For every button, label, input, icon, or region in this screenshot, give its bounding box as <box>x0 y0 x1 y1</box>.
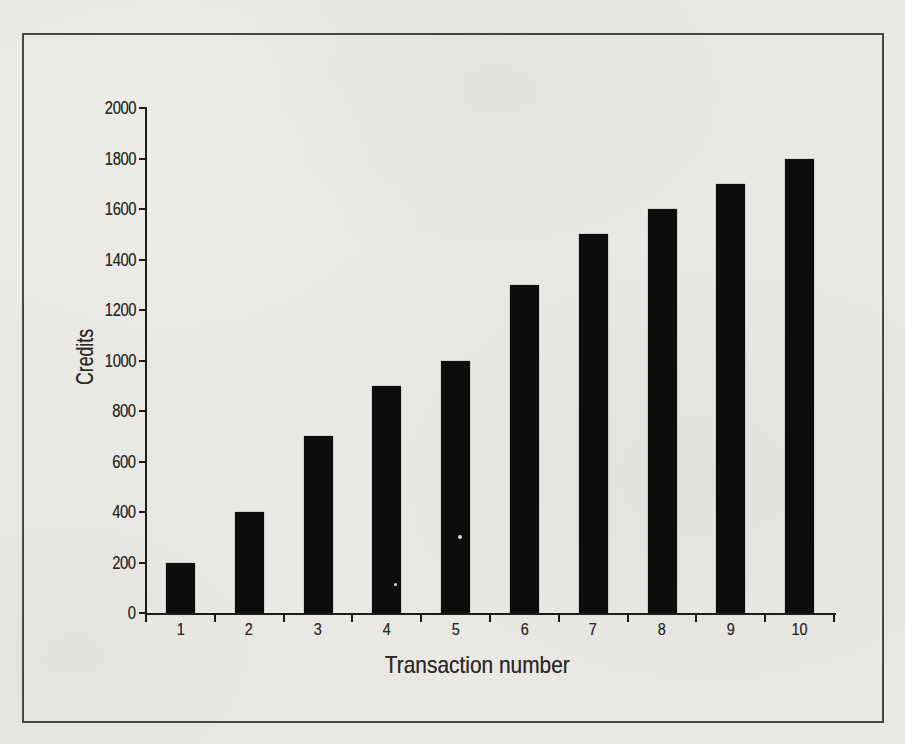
bar-transaction-7 <box>579 234 608 613</box>
y-tick-200 <box>139 562 146 564</box>
y-tick-label-200: 200 <box>84 554 136 572</box>
y-tick-label-2000: 2000 <box>84 99 136 117</box>
scan-dust-speck <box>394 583 397 586</box>
x-tick-7 <box>627 615 629 622</box>
x-tick-label-3: 3 <box>293 621 343 639</box>
x-tick-label-4: 4 <box>362 621 412 639</box>
bar-transaction-1 <box>166 563 195 614</box>
x-tick-1 <box>214 615 216 622</box>
y-tick-800 <box>139 410 146 412</box>
y-tick-1600 <box>139 208 146 210</box>
bar-transaction-2 <box>235 512 264 613</box>
y-tick-label-400: 400 <box>84 503 136 521</box>
x-tick-label-2: 2 <box>224 621 274 639</box>
x-axis-title: Transaction number <box>327 652 627 678</box>
x-tick-8 <box>695 615 697 622</box>
x-tick-label-7: 7 <box>568 621 618 639</box>
y-tick-label-800: 800 <box>84 402 136 420</box>
y-tick-0 <box>139 612 146 614</box>
y-tick-1400 <box>139 259 146 261</box>
y-tick-label-0: 0 <box>84 604 136 622</box>
y-tick-600 <box>139 461 146 463</box>
bar-transaction-3 <box>304 436 333 613</box>
x-tick-0 <box>145 615 147 622</box>
x-tick-label-1: 1 <box>155 621 205 639</box>
y-tick-label-1600: 1600 <box>84 200 136 218</box>
x-tick-3 <box>351 615 353 622</box>
scanned-book-figure-page: Credits 02004006008001000120014001600180… <box>0 0 905 744</box>
bar-transaction-4 <box>372 386 401 613</box>
y-tick-label-1800: 1800 <box>84 150 136 168</box>
x-tick-label-8: 8 <box>637 621 687 639</box>
x-tick-label-6: 6 <box>499 621 549 639</box>
y-tick-400 <box>139 511 146 513</box>
x-tick-5 <box>489 615 491 622</box>
y-tick-1800 <box>139 158 146 160</box>
y-tick-label-600: 600 <box>84 453 136 471</box>
x-tick-label-5: 5 <box>431 621 481 639</box>
x-tick-10 <box>833 615 835 622</box>
bar-transaction-6 <box>510 285 539 613</box>
bar-transaction-9 <box>716 184 745 613</box>
x-axis-title-text: Transaction number <box>385 652 570 678</box>
y-tick-1000 <box>139 360 146 362</box>
x-tick-9 <box>764 615 766 622</box>
y-tick-2000 <box>139 107 146 109</box>
y-tick-label-1400: 1400 <box>84 251 136 269</box>
x-tick-4 <box>420 615 422 622</box>
x-tick-label-9: 9 <box>706 621 756 639</box>
bar-transaction-8 <box>648 209 677 613</box>
x-tick-2 <box>283 615 285 622</box>
x-tick-label-10: 10 <box>775 621 825 639</box>
scan-dust-speck <box>458 535 462 539</box>
y-tick-label-1000: 1000 <box>84 352 136 370</box>
bar-transaction-5 <box>441 361 470 614</box>
bar-transaction-10 <box>785 159 814 614</box>
y-tick-label-1200: 1200 <box>84 301 136 319</box>
y-tick-1200 <box>139 309 146 311</box>
x-tick-6 <box>558 615 560 622</box>
